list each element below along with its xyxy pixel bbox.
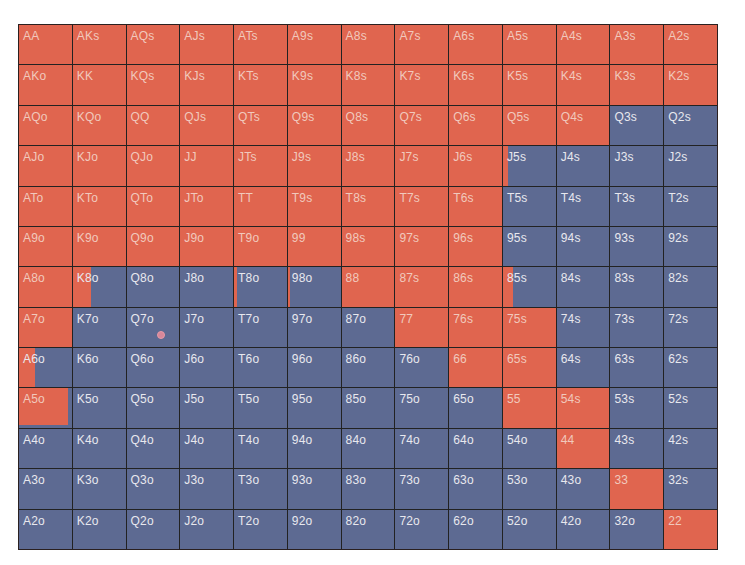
hand-label: T5o	[238, 392, 259, 406]
hand-cell: A7o	[19, 308, 72, 347]
hand-cell: 75s	[503, 308, 556, 347]
hand-label: J7s	[399, 150, 418, 164]
hand-cell: K8s	[342, 65, 395, 104]
hand-cell: 98o	[288, 267, 341, 306]
hand-label: AA	[23, 29, 39, 43]
hand-cell: J3o	[180, 469, 233, 508]
hand-cell: 53o	[503, 469, 556, 508]
hand-label: 53s	[614, 392, 634, 406]
hand-label: J3o	[184, 473, 204, 487]
hand-cell: K3o	[73, 469, 126, 508]
hand-label: A6s	[453, 29, 474, 43]
hand-cell: Q7s	[395, 106, 448, 145]
hand-cell: T3o	[234, 469, 287, 508]
hand-cell: 76s	[449, 308, 502, 347]
hand-label: K4s	[561, 69, 582, 83]
hand-label: 53o	[507, 473, 528, 487]
hand-label: 92o	[292, 514, 313, 528]
hand-cell: T5s	[503, 187, 556, 226]
hand-label: T8o	[238, 271, 259, 285]
hand-cell: AQs	[127, 25, 180, 64]
hand-cell: T6s	[449, 187, 502, 226]
hand-label: 65s	[507, 352, 527, 366]
hand-cell: Q5o	[127, 388, 180, 427]
hand-label: 73s	[614, 312, 634, 326]
hand-cell: TT	[234, 187, 287, 226]
hand-cell: T2o	[234, 510, 287, 549]
hand-label: 95s	[507, 231, 527, 245]
hand-label: AQo	[23, 110, 48, 124]
hand-cell: KK	[73, 65, 126, 104]
hand-cell: 93o	[288, 469, 341, 508]
hand-cell: K7o	[73, 308, 126, 347]
hand-label: T6o	[238, 352, 259, 366]
hand-cell: KJs	[180, 65, 233, 104]
hand-cell: 95o	[288, 388, 341, 427]
hand-cell: J2o	[180, 510, 233, 549]
hand-cell: 85o	[342, 388, 395, 427]
hand-label: 86o	[346, 352, 367, 366]
hand-cell: T4o	[234, 429, 287, 468]
hand-cell: J9s	[288, 146, 341, 185]
hand-label: AQs	[131, 29, 155, 43]
hand-label: JTo	[184, 191, 203, 205]
hand-cell: T2s	[664, 187, 717, 226]
hand-cell: A5o	[19, 388, 72, 427]
hand-cell: K8o	[73, 267, 126, 306]
hand-label: T3s	[614, 191, 635, 205]
hand-label: J5s	[507, 150, 526, 164]
hand-label: K7s	[399, 69, 420, 83]
hand-cell: 52s	[664, 388, 717, 427]
hand-label: Q2o	[131, 514, 154, 528]
hand-cell: 98s	[342, 227, 395, 266]
hand-label: ATo	[23, 191, 43, 205]
hand-label: 97s	[399, 231, 419, 245]
hand-cell: A3o	[19, 469, 72, 508]
hand-cell: Q3s	[610, 106, 663, 145]
hand-cell: 42o	[557, 510, 610, 549]
hand-label: J6o	[184, 352, 204, 366]
hand-label: 32s	[668, 473, 688, 487]
hand-label: 85s	[507, 271, 527, 285]
hand-cell: Q9o	[127, 227, 180, 266]
hand-cell: Q6s	[449, 106, 502, 145]
hand-label: K8s	[346, 69, 367, 83]
hand-label: T7o	[238, 312, 259, 326]
hand-label: Q9s	[292, 110, 315, 124]
hand-label: T7s	[399, 191, 420, 205]
hand-cell: A4s	[557, 25, 610, 64]
hand-cell: Q2s	[664, 106, 717, 145]
hand-label: JJ	[184, 150, 196, 164]
hand-label: K9o	[77, 231, 99, 245]
raise-fill	[234, 267, 237, 306]
hand-cell: 55	[503, 388, 556, 427]
hand-cell: T7s	[395, 187, 448, 226]
hand-label: 97o	[292, 312, 313, 326]
hand-label: QJs	[184, 110, 206, 124]
hand-cell: Q2o	[127, 510, 180, 549]
hand-label: 99	[292, 231, 306, 245]
hand-cell: AA	[19, 25, 72, 64]
hand-cell: 72o	[395, 510, 448, 549]
hand-cell: A8o	[19, 267, 72, 306]
hand-label: A3o	[23, 473, 45, 487]
hand-label: 54s	[561, 392, 581, 406]
hand-label: J4o	[184, 433, 204, 447]
hand-cell: T3s	[610, 187, 663, 226]
hand-label: T5s	[507, 191, 528, 205]
hand-label: 93s	[614, 231, 634, 245]
hand-label: KQo	[77, 110, 102, 124]
hand-label: QJo	[131, 150, 154, 164]
hand-cell: 99	[288, 227, 341, 266]
hand-label: T6s	[453, 191, 474, 205]
hand-cell: K9o	[73, 227, 126, 266]
hand-cell: KTo	[73, 187, 126, 226]
hand-cell: 88	[342, 267, 395, 306]
hand-label: J9s	[292, 150, 311, 164]
hand-label: J4s	[561, 150, 580, 164]
hand-label: KTo	[77, 191, 98, 205]
hand-cell: K3s	[610, 65, 663, 104]
raise-fill	[288, 267, 291, 306]
hand-label: A8o	[23, 271, 45, 285]
hand-label: 52s	[668, 392, 688, 406]
